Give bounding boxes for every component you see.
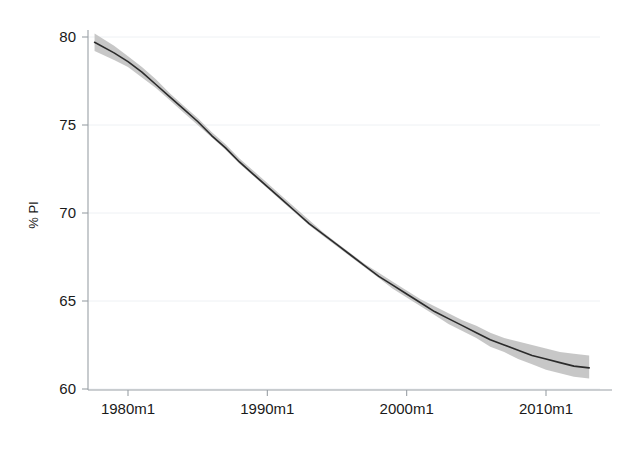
y-tick-label: 65 [59, 292, 76, 309]
x-tick-label: 1980m1 [101, 400, 155, 417]
y-tick-label: 75 [59, 116, 76, 133]
x-tick-label: 2010m1 [519, 400, 573, 417]
x-tick-label: 2000m1 [380, 400, 434, 417]
y-axis-title: % PI [26, 201, 41, 228]
y-axis-title-group: % PI [26, 201, 41, 228]
x-tick-label: 1990m1 [240, 400, 294, 417]
y-tick-label: 70 [59, 204, 76, 221]
chart-canvas: 8075706560 1980m11990m12000m12010m1 % PI [0, 0, 621, 450]
chart-figure: 8075706560 1980m11990m12000m12010m1 % PI [0, 0, 621, 450]
y-tick-label: 80 [59, 28, 76, 45]
y-tick-label: 60 [59, 380, 76, 397]
